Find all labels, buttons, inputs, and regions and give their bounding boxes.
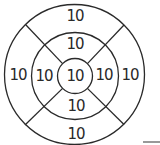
divider-top-right — [87, 25, 124, 64]
target-diagram: 10 10 10 10 10 10 10 10 10 — [0, 0, 160, 145]
label-middle-bottom: 10 — [67, 97, 85, 115]
label-outer-left: 10 — [9, 66, 27, 84]
label-outer-bottom: 10 — [67, 125, 85, 143]
divider-bottom-right — [87, 88, 124, 124]
divider-top-left — [26, 25, 63, 64]
label-middle-left: 10 — [35, 67, 53, 85]
label-outer-top: 10 — [66, 7, 84, 25]
label-center: 10 — [66, 67, 84, 85]
label-outer-right: 10 — [121, 66, 139, 84]
divider-bottom-left — [25, 88, 63, 125]
label-middle-top: 10 — [66, 35, 84, 53]
label-middle-right: 10 — [95, 66, 113, 84]
